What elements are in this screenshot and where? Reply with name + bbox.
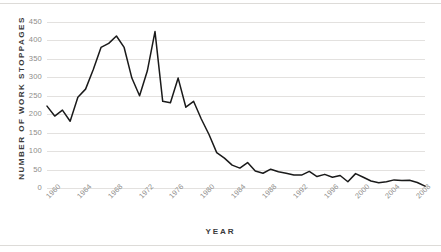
work-stoppages-line (47, 32, 425, 187)
chart-figure: NUMBER OF WORK STOPPAGES YEAR 0501001502… (0, 0, 441, 252)
line-series-plot (0, 0, 441, 252)
